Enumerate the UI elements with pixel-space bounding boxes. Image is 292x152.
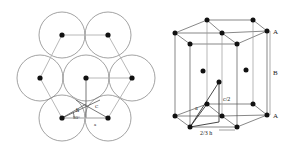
construction-lines — [62, 78, 108, 118]
cell-atoms — [173, 18, 270, 130]
label-c-half: c/2 — [223, 96, 230, 102]
cell-edges — [175, 20, 270, 130]
label-a: a — [94, 122, 97, 127]
label-layer-a-bottom: A — [273, 112, 278, 120]
label-h: h — [76, 107, 79, 113]
label-lattice-a: a — [195, 105, 198, 111]
label-two-thirds-h: 2/3 h — [200, 130, 212, 136]
hcp-unit-cell: A B A c/2 a 2/3 h — [173, 18, 279, 137]
close-packed-layer: h 30° a C — [17, 12, 155, 141]
label-layer-b: B — [273, 69, 278, 77]
label-c: C — [95, 104, 99, 109]
label-angle-30: 30° — [73, 115, 80, 120]
hcp-diagram: h 30° a C — [0, 0, 292, 152]
label-layer-a-top: A — [273, 28, 278, 36]
